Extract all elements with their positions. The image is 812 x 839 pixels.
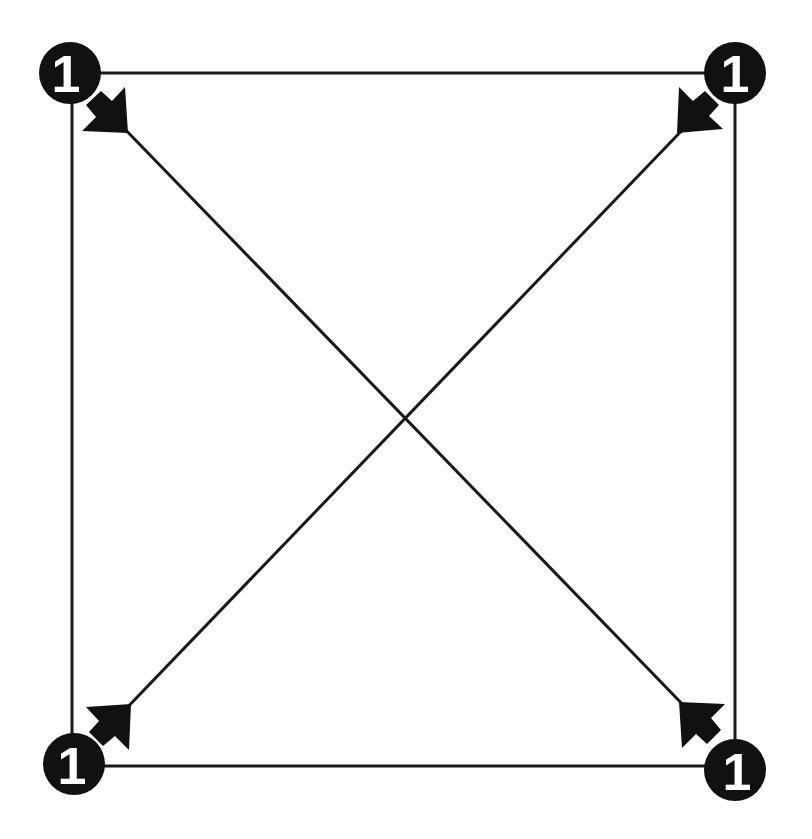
node-label: 1 xyxy=(52,45,81,103)
graph-diagram: 1 1 1 1 xyxy=(0,0,812,839)
node-bottom-left: 1 xyxy=(43,733,105,795)
node-label: 1 xyxy=(723,743,752,801)
node-label: 1 xyxy=(721,45,750,103)
node-label: 1 xyxy=(58,737,87,795)
node-top-right: 1 xyxy=(704,42,766,104)
arrowhead-bottom-right xyxy=(679,702,725,748)
node-bottom-right: 1 xyxy=(704,739,766,801)
node-top-left: 1 xyxy=(39,42,101,104)
